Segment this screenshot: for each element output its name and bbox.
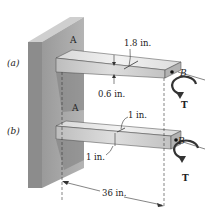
width-dimension-a: 1.8 in. — [124, 38, 151, 48]
end-a-label-a: A — [69, 35, 77, 45]
torque-label-b: T — [182, 173, 189, 183]
end-a-label-b: A — [71, 103, 79, 113]
width-dimension-b: 1 in. — [128, 110, 147, 120]
case-label-b: (b) — [7, 126, 20, 136]
thickness-dimension-a: 0.6 in. — [98, 89, 125, 99]
case-label-a: (a) — [7, 58, 20, 68]
length-dimension-label: 36 in. — [102, 188, 126, 198]
torque-arrow-a — [172, 77, 196, 99]
end-b-label-a: B — [179, 68, 187, 78]
torsion-bars-diagram: (a) (b) A A B B T T 1.8 in. 0.6 in. 1 in… — [0, 0, 215, 215]
torque-label-a: T — [181, 100, 188, 110]
end-b-label-b: B — [177, 136, 185, 146]
thickness-dimension-b: 1 in. — [86, 152, 105, 162]
